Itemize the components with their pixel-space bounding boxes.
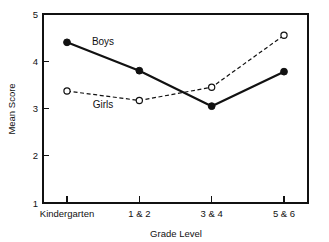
- y-tick-label: 4: [33, 56, 38, 67]
- x-tick-label: Kindergarten: [40, 208, 94, 219]
- series-label-girls: Girls: [93, 99, 114, 110]
- data-point: [64, 39, 71, 46]
- y-tick-label: 3: [33, 103, 38, 114]
- line-chart: 12345 Kindergarten1 & 23 & 45 & 6 Mean S…: [0, 0, 329, 242]
- data-point: [136, 67, 143, 74]
- chart-background: [0, 0, 329, 242]
- data-point: [281, 32, 287, 38]
- series-label-boys: Boys: [92, 36, 114, 47]
- data-point: [136, 97, 142, 103]
- data-point: [281, 68, 288, 75]
- x-tick-label: 3 & 4: [201, 208, 223, 219]
- x-axis-title: Grade Level: [150, 228, 202, 239]
- data-point: [64, 88, 70, 94]
- y-tick-label: 5: [33, 9, 38, 20]
- y-axis-title: Mean Score: [6, 83, 17, 134]
- y-tick-label: 2: [33, 150, 38, 161]
- data-point: [208, 103, 215, 110]
- data-point: [209, 84, 215, 90]
- x-tick-label: 5 & 6: [273, 208, 295, 219]
- y-tick-label: 1: [33, 198, 38, 209]
- chart-container: 12345 Kindergarten1 & 23 & 45 & 6 Mean S…: [0, 0, 329, 242]
- x-tick-label: 1 & 2: [128, 208, 150, 219]
